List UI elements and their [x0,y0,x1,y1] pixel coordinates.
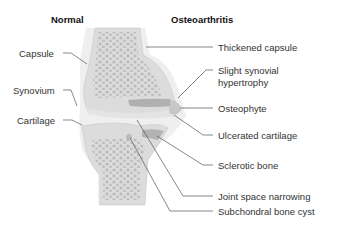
leader-cartilage [63,120,82,125]
label-slight-synovial-hypertrophy-2: hypertrophy [218,77,268,88]
label-osteophyte: Osteophyte [218,103,267,114]
label-ulcerated-cartilage: Ulcerated cartilage [218,130,297,141]
label-joint-space-narrowing: Joint space narrowing [218,191,310,202]
label-cartilage: Cartilage [17,115,55,126]
leader-synovium [63,90,77,106]
sclerotic-band-upper [128,99,172,107]
title-normal: Normal [51,14,84,25]
subchondral-bone-cyst [126,134,132,140]
leader-sclerotic-bone [157,136,213,165]
leader-synovial-hypertrophy [178,70,213,98]
title-osteoarthritis: Osteoarthritis [171,14,233,25]
label-capsule: Capsule [19,48,54,59]
label-synovium: Synovium [13,85,55,96]
label-slight-synovial-hypertrophy-1: Slight synovial [218,65,279,76]
label-subchondral-bone-cyst: Subchondral bone cyst [218,206,315,217]
label-sclerotic-bone: Sclerotic bone [218,160,278,171]
label-thickened-capsule: Thickened capsule [218,42,297,53]
